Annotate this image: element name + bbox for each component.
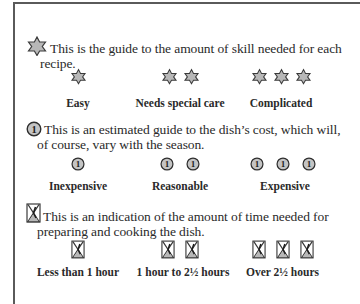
skill-complicated-icons (246, 68, 316, 85)
cost-reasonable-icons: 1 1 (155, 157, 205, 171)
star-icon (273, 68, 290, 85)
skill-label-special-care: Needs special care (125, 97, 235, 109)
svg-text:1: 1 (307, 159, 312, 169)
star-of-david-icon (26, 36, 48, 56)
cost-description: 1 This is an estimated guide to the dish… (26, 121, 340, 152)
skill-description: This is the guide to the amount of skill… (26, 36, 342, 71)
hourglass-icon (161, 240, 175, 259)
time-label-over-two-half-hours: Over 2½ hours (240, 266, 325, 278)
coin-icon: 1 (71, 157, 85, 171)
star-icon (183, 68, 200, 85)
cost-expensive-icons: 1 1 1 (246, 157, 320, 171)
hourglass-icon (252, 240, 266, 259)
svg-text:1: 1 (165, 159, 170, 169)
cost-inexpensive-icons: 1 (63, 157, 93, 171)
hourglass-icon (300, 240, 314, 259)
hourglass-icon (26, 203, 41, 223)
time-less-than-hour-icons (63, 240, 93, 259)
skill-label-complicated: Complicated (241, 97, 321, 109)
cost-label-reasonable: Reasonable (140, 180, 220, 192)
hourglass-icon (185, 240, 199, 259)
skill-label-easy: Easy (48, 97, 108, 109)
cost-label-inexpensive: Inexpensive (38, 180, 118, 192)
svg-text:1: 1 (76, 159, 81, 169)
skill-easy-icons (63, 68, 93, 85)
time-label-less-than-hour: Less than 1 hour (33, 266, 123, 278)
star-icon (70, 68, 87, 85)
star-icon (295, 68, 312, 85)
hourglass-icon (71, 240, 85, 259)
svg-text:1: 1 (281, 159, 286, 169)
coin-icon: 1 (186, 157, 200, 171)
star-icon (161, 68, 178, 85)
coin-icon: 1 (160, 157, 174, 171)
coin-icon: 1 (26, 121, 42, 137)
cost-label-expensive: Expensive (245, 180, 325, 192)
skill-icons-row (0, 68, 351, 86)
svg-text:1: 1 (255, 159, 260, 169)
time-one-to-two-half-hours-icons (155, 240, 205, 259)
coin-icon: 1 (302, 157, 316, 171)
coin-icon: 1 (276, 157, 290, 171)
time-icons-row (0, 240, 351, 258)
svg-text:1: 1 (191, 159, 196, 169)
coin-icon: 1 (250, 157, 264, 171)
time-over-two-half-hours-icons (246, 240, 320, 259)
time-description: This is an indication of the amount of t… (26, 203, 329, 239)
time-label-one-to-two-half-hours: 1 hour to 2½ hours (133, 266, 233, 278)
svg-text:1: 1 (31, 124, 36, 135)
skill-special-care-icons (155, 68, 205, 85)
hourglass-icon (276, 240, 290, 259)
star-icon (251, 68, 268, 85)
cost-icons-row: 1 1 1 1 1 1 (0, 157, 351, 175)
